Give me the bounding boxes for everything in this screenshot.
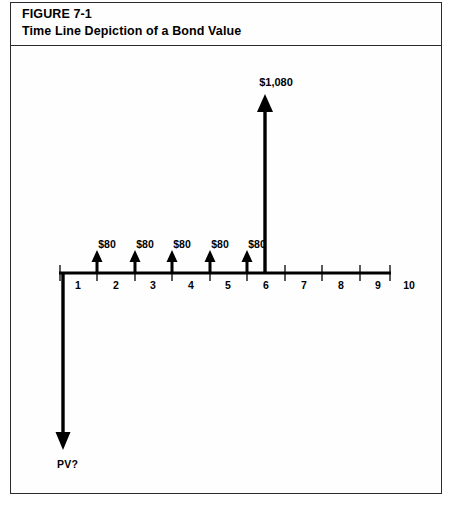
figure-title-block: FIGURE 7-1 Time Line Depiction of a Bond… bbox=[22, 6, 422, 40]
period-label-6: 6 bbox=[263, 279, 269, 291]
period-label-3: 3 bbox=[150, 279, 156, 291]
figure-number: FIGURE 7-1 bbox=[22, 6, 422, 23]
present-value-label: PV? bbox=[57, 458, 78, 470]
coupon-arrow-5 bbox=[242, 250, 253, 272]
coupon-arrow-2 bbox=[130, 250, 141, 272]
coupon-arrow-1 bbox=[92, 250, 103, 272]
period-label-2: 2 bbox=[113, 279, 119, 291]
period-label-4: 4 bbox=[188, 279, 194, 291]
period-label-7: 7 bbox=[301, 279, 307, 291]
period-label-8: 8 bbox=[338, 279, 344, 291]
cashflow-label-3: $80 bbox=[173, 238, 191, 250]
period-label-1: 1 bbox=[75, 279, 81, 291]
present-value-arrow bbox=[56, 274, 71, 450]
cashflow-label-5: $80 bbox=[248, 238, 266, 250]
coupon-arrow-3 bbox=[167, 250, 178, 272]
coupon-arrow-4 bbox=[205, 250, 216, 272]
period-label-5: 5 bbox=[225, 279, 231, 291]
cashflow-label-1: $80 bbox=[98, 238, 116, 250]
cashflow-label-4: $80 bbox=[211, 238, 229, 250]
figure-page: FIGURE 7-1 Time Line Depiction of a Bond… bbox=[0, 0, 454, 507]
coupon-arrows bbox=[92, 250, 253, 272]
timeline-svg bbox=[10, 46, 442, 494]
period-label-9: 9 bbox=[375, 279, 381, 291]
timeline-chart: $80 $80 $80 $80 $80 $1,080 1 2 3 4 5 6 7… bbox=[10, 46, 442, 494]
period-label-10: 10 bbox=[403, 279, 415, 291]
cashflow-label-2: $80 bbox=[136, 238, 154, 250]
figure-caption: Time Line Depiction of a Bond Value bbox=[22, 23, 422, 40]
cashflow-label-6: $1,080 bbox=[259, 76, 293, 88]
